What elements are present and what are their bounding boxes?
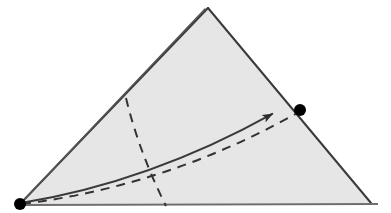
- figure-root: A light gray shaded triangle. A solid cu…: [0, 0, 391, 213]
- vertex-left-dot: [14, 198, 26, 210]
- geometric-diagram-canvas: A light gray shaded triangle. A solid cu…: [0, 0, 391, 213]
- triangle-base-line: [20, 204, 378, 205]
- triangle-group: [20, 8, 371, 204]
- triangle-fill-texture: [20, 8, 371, 204]
- vertex-right-dot: [294, 104, 306, 116]
